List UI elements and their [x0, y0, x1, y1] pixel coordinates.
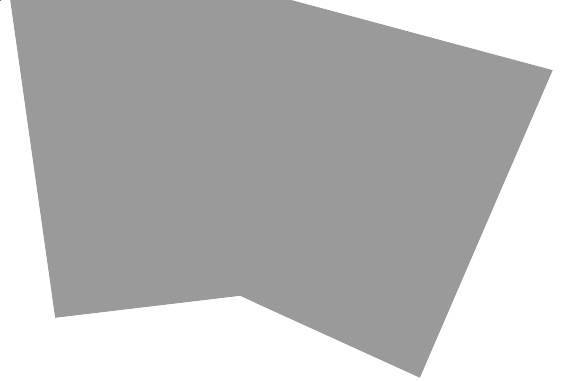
diagram-canvas — [0, 0, 585, 381]
folding-diagram — [0, 0, 585, 381]
patterned-sheet — [10, 0, 553, 378]
swirl-pattern — [10, 0, 553, 378]
